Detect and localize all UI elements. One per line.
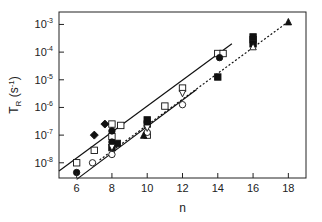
data-point-square-open [73,160,79,166]
data-point-square-filled [250,34,256,40]
data-point-square-open [109,121,115,127]
fit-line [59,44,232,171]
data-point-diamond-filled [101,120,109,128]
data-point-circle-open [89,160,95,166]
data-point-square-open [162,103,168,109]
data-point-diamond-filled [90,131,98,139]
data-point-triangle-down-open [179,90,185,96]
x-axis-label: n [179,201,186,215]
y-axis-ticks: 10-310-410-510-610-710-8 [35,17,64,168]
scatter-plot: 681012141618 10-310-410-510-610-710-8 n … [0,0,322,222]
y-tick-label: 10-3 [35,17,54,30]
y-axis-label-unit: (s [7,87,21,100]
y-tick-label: 10-6 [35,100,54,113]
x-tick-label: 12 [176,182,188,194]
x-tick-label: 6 [74,182,80,194]
y-tick-label: 10-8 [35,156,54,169]
x-tick-label: 10 [141,182,153,194]
x-tick-label: 8 [109,182,115,194]
y-tick-label: 10-4 [35,45,54,58]
data-points [73,18,291,175]
data-point-square-filled [215,74,221,80]
y-tick-label: 10-5 [35,73,54,86]
x-tick-label: 14 [212,182,224,194]
x-tick-label: 18 [282,182,294,194]
data-point-circle-filled [109,128,115,134]
y-axis-label-unit-close: ) [7,76,21,80]
y-axis-label: TR (s-1) [7,76,23,114]
data-point-triangle-filled [285,18,291,24]
data-point-circle-open [179,101,185,107]
data-point-square-open [118,122,124,128]
data-point-circle-open [109,151,115,157]
x-tick-label: 16 [247,182,259,194]
y-tick-label: 10-7 [35,128,54,141]
data-point-square-open [91,147,97,153]
x-axis-ticks: 681012141618 [74,173,295,194]
chart: 681012141618 10-310-410-510-610-710-8 n … [0,0,322,222]
data-point-circle-filled [216,54,222,60]
